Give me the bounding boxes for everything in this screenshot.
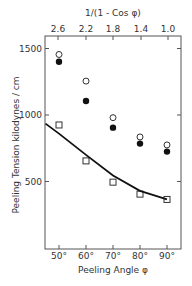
y-tick-label: 1000 (19, 110, 42, 120)
top-tick-label: 2.6 (51, 24, 66, 34)
x-axis-label: Peeling Angle φ (78, 265, 148, 275)
x-tick-label: 70° (105, 251, 121, 261)
top-tick-label: 1.4 (134, 24, 149, 34)
y-tick-label: 1500 (19, 44, 42, 54)
open-circle-marker (164, 142, 170, 148)
chart: 50°60°70°80°90°2.62.21.81.41.01/(1 - Cos… (0, 0, 192, 286)
open-square-marker (56, 122, 62, 128)
open-circle-marker (137, 134, 143, 140)
theory-curve (46, 124, 168, 200)
x-tick-label: 60° (78, 251, 94, 261)
filled-circle-marker (56, 59, 62, 65)
top-tick-label: 1.8 (106, 24, 121, 34)
open-circle-marker (83, 78, 89, 84)
filled-circle-marker (137, 140, 143, 146)
y-tick-label: 500 (25, 177, 42, 187)
top-axis-label: 1/(1 - Cos φ) (85, 8, 141, 18)
x-tick-label: 90° (159, 251, 175, 261)
x-tick-label: 50° (51, 251, 67, 261)
filled-circle-marker (83, 98, 89, 104)
x-tick-label: 80° (132, 251, 148, 261)
filled-circle-marker (110, 124, 116, 130)
top-tick-label: 1.0 (161, 24, 176, 34)
open-circle-marker (56, 51, 62, 57)
open-circle-marker (110, 115, 116, 121)
top-tick-label: 2.2 (79, 24, 93, 34)
open-square-marker (83, 158, 89, 164)
y-axis-label: Peeling Tension kilodynes / cm (11, 76, 21, 213)
open-square-marker (110, 179, 116, 185)
filled-circle-marker (164, 148, 170, 154)
plot-frame (45, 36, 181, 249)
